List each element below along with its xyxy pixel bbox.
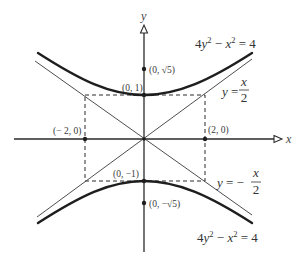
x-axis-arrow-icon [274,136,282,143]
y-axis-arrow-icon [141,25,148,33]
hyperbola-diagram: x y (0, 1) (0, √5) (− 2, 0) (2, 0) (0, −… [0,0,300,265]
label-focus-top: (0, √5) [149,65,175,76]
point-focus-bottom [142,201,146,205]
svg-text:y =: y = [220,84,238,99]
label-vertex-bottom: (0, −1) [113,169,139,180]
label-right: (2, 0) [208,125,229,136]
eq-minus: − [212,36,226,51]
point-origin [142,137,146,141]
hyperbola-equation-bottom: 4y2 − x2 = 4 [197,229,258,245]
label-vertex-top: (0, 1) [122,83,143,94]
hyperbola-equation-top: 4y2 − x2 = 4 [195,35,256,51]
point-vertex-top [142,93,146,97]
asym-pos-denominator: 2 [241,90,248,105]
eq-rhs: = 4 [237,230,258,245]
point-right [203,137,207,141]
x-axis-label: x [285,132,292,146]
point-focus-top [142,67,146,71]
hyperbola-upper-branch [38,53,252,95]
y-axis-label: y [140,9,147,23]
label-left: (− 2, 0) [53,126,81,137]
asym-pos-eq: = [228,84,239,99]
label-focus-bottom: (0, −√5) [149,199,180,210]
eq-rhs: = 4 [235,36,256,51]
asym-neg-numerator: x [252,165,259,180]
asym-neg-eq: = − [223,175,244,190]
asym-neg-denominator: 2 [253,182,260,197]
asym-pos-numerator: x [240,74,247,89]
point-vertex-bottom [142,179,146,183]
point-left [83,137,87,141]
eq-minus: − [214,230,228,245]
asymptote-positive-label: y = x 2 [220,74,249,105]
asymptote-negative-label: y = − x 2 [215,165,261,197]
svg-text:y = −: y = − [215,175,244,190]
